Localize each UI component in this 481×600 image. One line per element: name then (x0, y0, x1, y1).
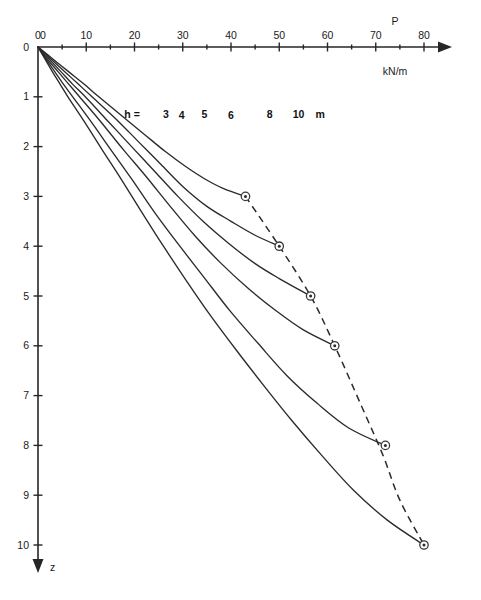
y-tick-label: 1 (23, 90, 29, 102)
y-tick-label: 0 (23, 41, 29, 53)
endpoint-marker-dot-h-5 (309, 295, 312, 298)
data-curves (38, 47, 424, 545)
x-tick-label: 10 (80, 29, 92, 41)
y-tick-label: 9 (23, 489, 29, 501)
chart-container: 01020304050607080 P kN/m 0123456789100 z… (0, 0, 481, 600)
curve-label-5: 5 (202, 108, 208, 120)
pz-curve-chart: 01020304050607080 P kN/m 0123456789100 z… (0, 0, 481, 600)
curve-label-6: 6 (228, 109, 234, 121)
y-tick-label: 3 (23, 190, 29, 202)
y-axis-title: z (50, 561, 55, 573)
curve-label-4: 4 (179, 109, 185, 121)
y-tick-label: 4 (23, 240, 29, 252)
y-axis-arrowhead (33, 559, 44, 573)
envelope-path (245, 196, 424, 545)
x-tick-label: 60 (322, 29, 334, 41)
endpoint-marker-dot-h-4 (278, 245, 281, 248)
x-axis-unit-label: kN/m (383, 65, 408, 77)
curve-h-3 (38, 47, 245, 196)
curve-label-3: 3 (163, 108, 169, 120)
x-tick-label: 50 (273, 29, 285, 41)
endpoint-marker-dot-h-10 (423, 544, 426, 547)
x-tick-label: 40 (225, 29, 237, 41)
x-axis-arrowhead (438, 42, 452, 53)
y-tick-label: 5 (23, 290, 29, 302)
curve-legend-labels: h =3456810m (124, 108, 325, 121)
curve-h-6 (38, 47, 335, 346)
y-tick-label: 10 (17, 539, 29, 551)
x-tick-label: 20 (129, 29, 141, 41)
endpoint-marker-dot-h-3 (244, 195, 247, 198)
curve-h-10 (38, 47, 424, 545)
y-axis-tick-labels: 0123456789100 (17, 29, 46, 551)
endpoint-envelope-curve (245, 196, 424, 545)
y-axis: 0123456789100 z (17, 29, 55, 573)
x-tick-label: 30 (177, 29, 189, 41)
y-tick-label: 6 (23, 339, 29, 351)
origin-label: 0 (40, 29, 46, 41)
x-axis-tick-labels: 01020304050607080 (35, 29, 430, 41)
x-axis: 01020304050607080 P kN/m (35, 15, 452, 77)
x-tick-label: 80 (418, 29, 430, 41)
curve-label-m: m (316, 108, 325, 120)
curve-label-10: 10 (293, 108, 305, 120)
curve-h-8 (38, 47, 385, 445)
endpoint-marker-dot-h-8 (384, 444, 387, 447)
y-tick-label: 7 (23, 389, 29, 401)
y-tick-label: 2 (23, 140, 29, 152)
y-tick-label: 8 (23, 439, 29, 451)
x-tick-label: 70 (370, 29, 382, 41)
curve-label-h: h = (124, 108, 139, 120)
endpoint-marker-dot-h-6 (333, 344, 336, 347)
curve-label-8: 8 (267, 108, 273, 120)
endpoint-markers (241, 192, 428, 549)
x-axis-title: P (392, 15, 399, 27)
